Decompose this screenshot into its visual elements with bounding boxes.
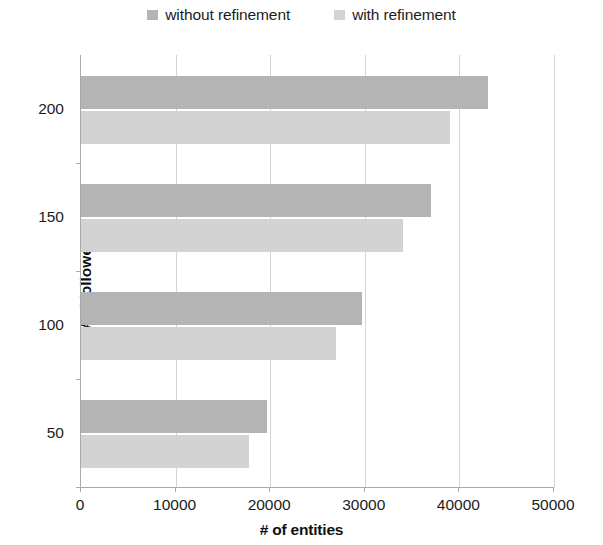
x-axis-tick-label: 10000 — [130, 496, 220, 514]
x-axis-title: # of entities — [0, 521, 603, 539]
chart-legend: without refinement with refinement — [0, 7, 603, 23]
y-axis-tick-label: 200 — [38, 100, 64, 118]
x-axis-tick-label: 0 — [35, 496, 125, 514]
y-axis-tick-label: 50 — [47, 424, 64, 442]
plot-area — [80, 55, 554, 488]
y-axis-tick-label: 100 — [38, 316, 64, 334]
x-axis-tick-marks — [80, 487, 553, 493]
bar — [81, 219, 403, 252]
bar — [81, 327, 336, 360]
bar-chart: without refinement with refinement # of … — [0, 0, 603, 545]
x-axis-tick-label: 40000 — [413, 496, 503, 514]
bars-layer — [81, 55, 554, 487]
x-axis-tick-label: 30000 — [319, 496, 409, 514]
legend-label-with-refinement: with refinement — [352, 7, 456, 23]
x-axis-tick-label: 50000 — [508, 496, 598, 514]
bar — [81, 76, 488, 109]
bar — [81, 111, 450, 144]
x-axis-tick-label: 20000 — [224, 496, 314, 514]
bar — [81, 184, 431, 217]
x-axis-tick-mark — [553, 487, 554, 492]
legend-swatch-with-refinement — [334, 10, 345, 20]
legend-entry-with-refinement: with refinement — [334, 7, 456, 23]
gridline — [554, 55, 555, 487]
y-axis-tick-labels: 20015010050 — [0, 55, 72, 487]
y-axis-tick-label: 150 — [38, 208, 64, 226]
bar — [81, 435, 249, 468]
x-axis-tick-mark — [269, 487, 270, 492]
x-axis-tick-labels: 01000020000300004000050000 — [0, 496, 603, 518]
legend-swatch-without-refinement — [147, 10, 158, 20]
x-axis-tick-mark — [80, 487, 81, 492]
bar — [81, 400, 267, 433]
legend-label-without-refinement: without refinement — [165, 7, 290, 23]
x-axis-tick-mark — [175, 487, 176, 492]
bar — [81, 292, 362, 325]
x-axis-tick-mark — [458, 487, 459, 492]
legend-entry-without-refinement: without refinement — [147, 7, 290, 23]
x-axis-tick-mark — [364, 487, 365, 492]
